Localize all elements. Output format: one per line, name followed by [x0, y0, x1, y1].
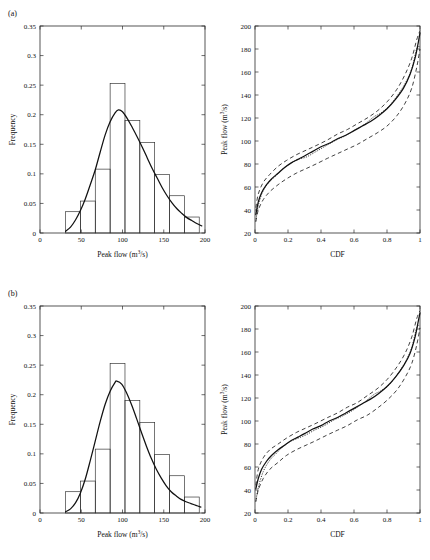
histogram-bar: [140, 143, 155, 233]
y-tick-label: 0: [33, 230, 37, 238]
y-tick-label: 60: [244, 184, 252, 192]
fitted-quantile-curve: [256, 33, 420, 215]
y-tick-label: 20: [244, 510, 252, 518]
x-axis-title: Peak flow (m3/s): [97, 249, 148, 259]
histogram-bar: [184, 217, 199, 233]
y-tick-label: 160: [241, 69, 252, 77]
y-tick-label: 140: [241, 372, 252, 380]
panel-b-histogram: (b) 05010015020000.050.10.150.20.250.30.…: [0, 280, 215, 560]
y-tick-label: 0.3: [27, 332, 36, 340]
x-tick-label: 1: [418, 236, 422, 244]
y-tick-label: 0.05: [24, 480, 37, 488]
panel-label-b: (b): [8, 289, 17, 298]
y-tick-label: 0: [33, 510, 37, 518]
fitted-quantile-curve: [256, 313, 420, 489]
x-tick-label: 0: [38, 516, 42, 524]
y-tick-label: 100: [241, 138, 252, 146]
histogram-bar: [155, 174, 170, 233]
y-axis-title: Frequency: [8, 393, 17, 425]
y-tick-label: 0.15: [24, 421, 37, 429]
empirical-data-curve: [256, 47, 420, 222]
histogram-bar: [170, 476, 185, 513]
x-tick-label: 0.2: [284, 516, 293, 524]
x-tick-label: 0: [253, 516, 257, 524]
histogram-bar: [110, 83, 125, 233]
histogram-bar: [125, 401, 140, 513]
x-axis-title: Peak flow (m3/s): [97, 529, 148, 539]
plot-frame: [255, 26, 420, 233]
confidence-bound-curve: [256, 328, 420, 502]
x-tick-label: 0.6: [350, 236, 359, 244]
hist-b-plot-area: 05010015020000.050.10.150.20.250.30.35Pe…: [8, 303, 211, 540]
x-tick-label: 0.4: [317, 516, 326, 524]
plot-frame: [255, 306, 420, 513]
plot-frame: [40, 26, 205, 233]
confidence-bound-curve: [256, 311, 420, 486]
y-tick-label: 200: [241, 303, 252, 311]
panel-a-cdf-svg: 00.20.40.60.8120406080100120140160180200…: [215, 0, 430, 280]
panel-a-cdf: 00.20.40.60.8120406080100120140160180200…: [215, 0, 430, 280]
y-tick-label: 200: [241, 23, 252, 31]
x-tick-label: 100: [117, 236, 128, 244]
histogram-bar: [66, 492, 81, 513]
confidence-bound-curve: [256, 31, 420, 208]
y-axis-title: Peak flow (m3/s): [219, 384, 229, 435]
y-tick-label: 80: [244, 161, 252, 169]
x-tick-label: 150: [159, 236, 170, 244]
y-tick-label: 160: [241, 349, 252, 357]
x-tick-label: 0: [253, 236, 257, 244]
x-tick-label: 1: [418, 516, 422, 524]
x-tick-label: 50: [78, 516, 86, 524]
y-tick-label: 0.1: [27, 170, 36, 178]
y-tick-label: 180: [241, 326, 252, 334]
x-tick-label: 0.4: [317, 236, 326, 244]
y-axis-title: Frequency: [8, 113, 17, 145]
cdf-b-plot-area: 00.20.40.60.8120406080100120140160180200…: [219, 303, 422, 540]
panel-b-cdf: 00.20.40.60.8120406080100120140160180200…: [215, 280, 430, 560]
empirical-data-curve: [256, 325, 420, 501]
y-tick-label: 0.2: [27, 391, 36, 399]
x-axis-title: CDF: [330, 250, 345, 259]
y-tick-label: 0.2: [27, 111, 36, 119]
plot-frame: [40, 306, 205, 513]
cdf-a-plot-area: 00.20.40.60.8120406080100120140160180200…: [219, 23, 422, 260]
y-tick-label: 0.25: [24, 362, 37, 370]
x-tick-label: 50: [78, 236, 86, 244]
hist-a-plot-area: 05010015020000.050.10.150.20.250.30.35Pe…: [8, 23, 211, 260]
y-tick-label: 120: [241, 395, 252, 403]
x-tick-label: 0: [38, 236, 42, 244]
histogram-bar: [95, 169, 110, 233]
x-tick-label: 150: [159, 516, 170, 524]
x-tick-label: 0.8: [383, 236, 392, 244]
y-tick-label: 0.15: [24, 141, 37, 149]
y-tick-label: 0.05: [24, 200, 37, 208]
histogram-bars: [66, 363, 200, 513]
panel-a-histogram: (a) 05010015020000.050.10.150.20.250.30.…: [0, 0, 215, 280]
histogram-bar: [140, 423, 155, 513]
y-tick-label: 100: [241, 418, 252, 426]
y-tick-label: 40: [244, 207, 252, 215]
panel-b-histogram-svg: 05010015020000.050.10.150.20.250.30.35Pe…: [0, 280, 215, 560]
x-tick-label: 200: [200, 236, 211, 244]
histogram-bar: [95, 449, 110, 513]
y-tick-label: 40: [244, 487, 252, 495]
x-tick-label: 0.8: [383, 516, 392, 524]
y-axis-title: Peak flow (m3/s): [219, 104, 229, 155]
figure-root: (a) 05010015020000.050.10.150.20.250.30.…: [0, 0, 430, 560]
x-tick-label: 0.2: [284, 236, 293, 244]
panel-label-a: (a): [8, 9, 17, 18]
y-tick-label: 180: [241, 46, 252, 54]
histogram-bar: [184, 497, 199, 513]
fitted-pdf-curve: [66, 110, 202, 231]
y-tick-label: 80: [244, 441, 252, 449]
panel-a-histogram-svg: 05010015020000.050.10.150.20.250.30.35Pe…: [0, 0, 215, 280]
x-tick-label: 100: [117, 516, 128, 524]
y-tick-label: 0.35: [24, 23, 37, 31]
y-tick-label: 0.1: [27, 450, 36, 458]
panel-b-cdf-svg: 00.20.40.60.8120406080100120140160180200…: [215, 280, 430, 560]
x-axis-title: CDF: [330, 530, 345, 539]
confidence-bound-curve: [256, 49, 420, 222]
histogram-bar: [155, 454, 170, 513]
y-tick-label: 20: [244, 230, 252, 238]
x-tick-label: 0.6: [350, 516, 359, 524]
